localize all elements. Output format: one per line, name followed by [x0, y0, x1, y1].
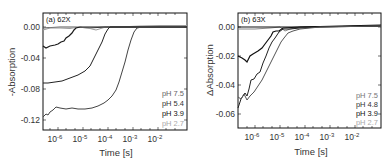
- curve-ph3.9-a: [43, 27, 187, 83]
- svg-text:10-3: 10-3: [320, 132, 335, 142]
- svg-text:10-4: 10-4: [295, 132, 310, 142]
- xtick-labels-a: 10-6 10-5 10-4 10-3 10-2: [48, 134, 163, 144]
- x-axis-label-a: Time [s]: [99, 147, 132, 158]
- ytick-label: -0.06: [216, 109, 236, 119]
- svg-text:10-4: 10-4: [98, 134, 113, 144]
- legend-item: pH 7.5: [162, 89, 184, 98]
- svg-text:10-2: 10-2: [345, 132, 360, 142]
- legend-item: pH 3.9: [162, 109, 184, 118]
- legend-item: pH 2.7: [162, 119, 184, 128]
- panel-a: 0.00 -0.04 -0.08 -0.12 10-6 10-5 10-4 10…: [6, 13, 187, 158]
- panel-label-b: (b) 63X: [241, 15, 266, 24]
- curve-ph2.7-b: [238, 26, 381, 100]
- ytick-label: -0.04: [216, 80, 236, 90]
- figure: 0.00 -0.04 -0.08 -0.12 10-6 10-5 10-4 10…: [0, 0, 391, 161]
- svg-text:10-6: 10-6: [245, 132, 260, 142]
- svg-text:10-2: 10-2: [148, 134, 163, 144]
- svg-text:10-5: 10-5: [270, 132, 285, 142]
- ytick-label: -0.08: [21, 84, 41, 94]
- panel-b: 0.00 -0.02 -0.04 -0.06 10-6 10-5 10-4 10…: [204, 13, 381, 157]
- x-axis-label-b: Time [s]: [294, 146, 327, 157]
- legend-item: pH 4.8: [356, 100, 378, 109]
- legend-item: pH 3.9: [356, 109, 378, 118]
- legend-item: pH 2.7: [356, 118, 378, 127]
- y-axis-label-a: -Absorption: [6, 48, 17, 97]
- curve-ph5.4-a: [43, 27, 187, 48]
- curve-ph2.7-flat-a: [43, 26, 187, 31]
- legend-item: pH 5.4: [162, 99, 184, 108]
- ytick-label: 0.00: [23, 22, 40, 32]
- legend-b: pH 7.5 pH 4.8 pH 3.9 pH 2.7: [356, 91, 378, 127]
- svg-text:10-6: 10-6: [48, 134, 63, 144]
- svg-text:10-3: 10-3: [123, 134, 138, 144]
- xtick-labels-b: 10-6 10-5 10-4 10-3 10-2: [245, 132, 360, 142]
- ytick-label: -0.02: [216, 51, 236, 61]
- svg-text:10-5: 10-5: [73, 134, 88, 144]
- ytick-label: 0.00: [218, 22, 235, 32]
- ytick-label: -0.12: [21, 115, 41, 125]
- curve-ph4.8-b: [238, 26, 381, 62]
- y-axis-label-b: ΔAbsorption: [204, 44, 215, 96]
- legend-item: pH 7.5: [356, 91, 378, 100]
- legend-a: pH 7.5 pH 5.4 pH 3.9 pH 2.7: [162, 89, 184, 128]
- panel-label-a: (a) 62X: [46, 15, 71, 24]
- ytick-label: -0.04: [21, 53, 41, 63]
